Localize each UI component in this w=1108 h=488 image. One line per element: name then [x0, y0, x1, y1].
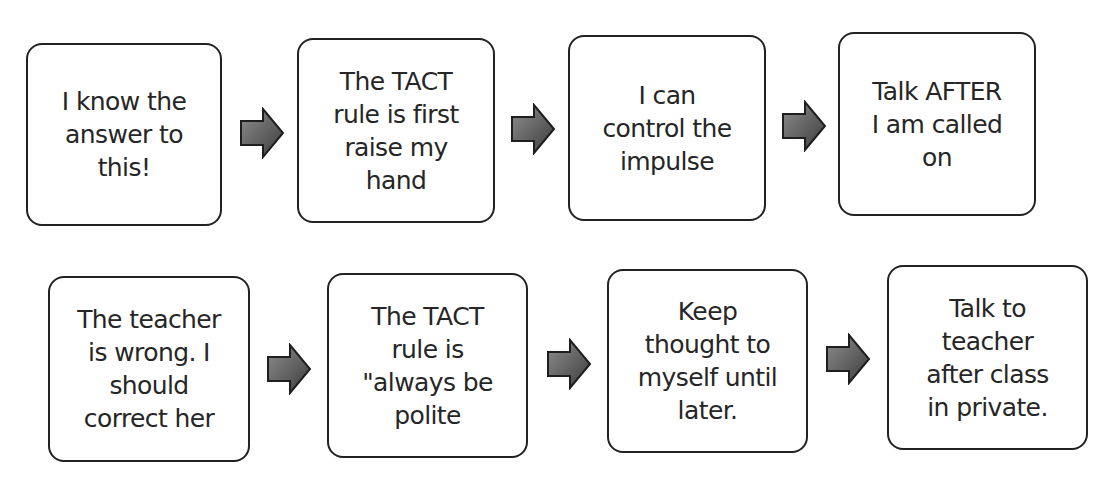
box-text: The TACT rule is first raise my hand [327, 65, 464, 197]
flow-box-talk-teacher-private: Talk to teacher after class in private. [887, 265, 1088, 450]
box-text: The TACT rule is "always be polite [356, 300, 499, 432]
box-text: The teacher is wrong. I should correct h… [71, 303, 227, 435]
flow-box-teacher-wrong: The teacher is wrong. I should correct h… [48, 276, 250, 462]
flow-box-talk-after-called: Talk AFTER I am called on [838, 32, 1036, 216]
right-arrow-icon [239, 107, 285, 159]
box-text: Keep thought to myself until later. [632, 295, 783, 427]
box-text: I know the answer to this! [56, 85, 192, 184]
flow-box-tact-polite: The TACT rule is "always be polite [327, 273, 528, 458]
right-arrow-icon [825, 333, 871, 385]
right-arrow-icon [266, 343, 312, 395]
right-arrow-icon [781, 100, 827, 152]
right-arrow-icon [546, 338, 592, 390]
flow-box-know-answer: I know the answer to this! [26, 43, 222, 226]
flow-box-tact-raise-hand: The TACT rule is first raise my hand [297, 38, 495, 223]
box-text: I can control the impulse [596, 79, 737, 178]
flow-box-control-impulse: I can control the impulse [568, 35, 766, 221]
flow-box-keep-thought: Keep thought to myself until later. [607, 269, 808, 453]
box-text: Talk to teacher after class in private. [920, 292, 1055, 424]
right-arrow-icon [510, 103, 556, 155]
box-text: Talk AFTER I am called on [866, 75, 1009, 174]
